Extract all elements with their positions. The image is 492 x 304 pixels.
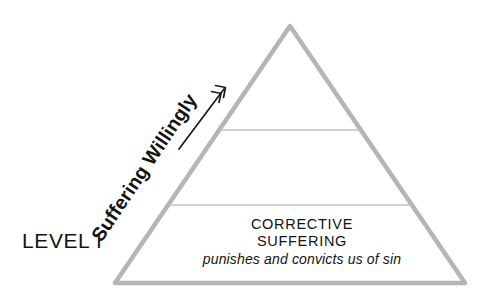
band-subtitle: punishes and convicts us of sin <box>192 250 412 268</box>
arrow-head-icon <box>212 86 226 103</box>
band-title-line-2: SUFFERING <box>192 233 412 250</box>
diagram-canvas: LEVEL I Suffering Willingly CORRECTIVE S… <box>0 0 492 304</box>
corrective-suffering-block: CORRECTIVE SUFFERING punishes and convic… <box>192 216 412 268</box>
band-title-line-1: CORRECTIVE <box>192 216 412 233</box>
